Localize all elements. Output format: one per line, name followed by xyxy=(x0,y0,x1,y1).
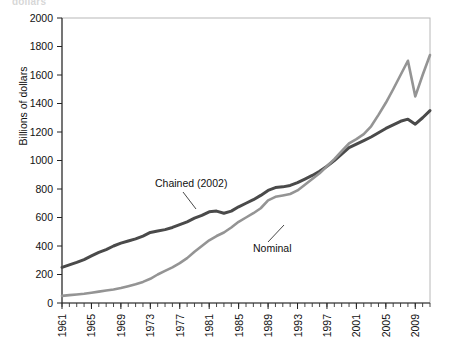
chained-series-label: Chained (2002) xyxy=(155,177,227,189)
series-nominal xyxy=(62,55,430,296)
x-tick-label: 1965 xyxy=(85,314,97,338)
y-tick-label: 1400 xyxy=(30,97,54,109)
y-tick-label: 1200 xyxy=(30,126,54,138)
chained-leader-line xyxy=(183,192,196,209)
x-tick-label: 1977 xyxy=(174,314,186,338)
x-tick-label: 1973 xyxy=(144,314,156,338)
y-tick-label: 1000 xyxy=(30,154,54,166)
x-tick-label: 2005 xyxy=(380,314,392,338)
y-tick-label: 800 xyxy=(35,183,53,195)
y-tick-label: 200 xyxy=(35,268,53,280)
y-tick-label: 600 xyxy=(35,211,53,223)
plot-frame xyxy=(62,18,430,303)
y-tick-label: 1800 xyxy=(30,40,54,52)
nominal-series-label: Nominal xyxy=(253,242,292,254)
nominal-leader-line xyxy=(268,225,284,242)
x-tick-label: 1969 xyxy=(115,314,127,338)
x-tick-label: 2001 xyxy=(350,314,362,338)
y-tick-label: 0 xyxy=(47,297,53,309)
x-tick-label: 1961 xyxy=(56,314,68,338)
x-tick-label: 1981 xyxy=(203,314,215,338)
series-chained xyxy=(62,111,430,268)
chart-figure: dollars Billions of dollars 020040060080… xyxy=(0,0,452,345)
x-tick-label: 1989 xyxy=(262,314,274,338)
x-tick-label: 1985 xyxy=(233,314,245,338)
x-tick-label: 1997 xyxy=(321,314,333,338)
x-tick-label: 2009 xyxy=(409,314,421,338)
y-tick-label: 2000 xyxy=(30,12,54,24)
y-tick-label: 400 xyxy=(35,240,53,252)
plot-svg: 0200400600800100012001400160018002000196… xyxy=(0,0,452,345)
x-tick-label: 1993 xyxy=(292,314,304,338)
y-tick-label: 1600 xyxy=(30,69,54,81)
